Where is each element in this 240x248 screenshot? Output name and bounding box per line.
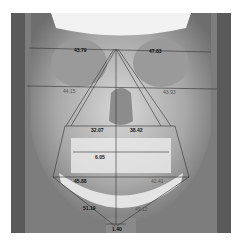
- measurement-gonial-right: 42.41: [151, 178, 164, 184]
- measurement-maxilla-left: 32.07: [91, 127, 104, 133]
- measurement-gonial-left: 45.88: [74, 178, 87, 184]
- measurement-orbit-right: 47.83: [149, 48, 162, 54]
- xray-image: 43.79 47.83 44.15 43.93 32.07 38.42 6.05…: [11, 13, 231, 233]
- measurement-menton: 1.40: [112, 226, 122, 232]
- measurement-zygomatic-left: 44.15: [63, 88, 76, 94]
- measurement-maxilla-right: 38.42: [130, 127, 143, 133]
- measurement-mandible-left: 51.19: [83, 205, 96, 211]
- skull-illustration: [11, 13, 231, 233]
- measurement-zygomatic-right: 43.93: [163, 89, 176, 95]
- measurement-orbit-left: 43.79: [74, 47, 87, 53]
- measurement-mandible-right: 49.12: [135, 206, 148, 212]
- measurement-dental-midline: 6.05: [95, 154, 105, 160]
